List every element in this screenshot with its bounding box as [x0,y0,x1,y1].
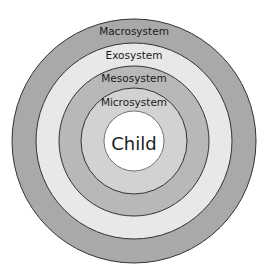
label-child: Child [111,133,156,154]
label-exosystem: Exosystem [106,49,163,61]
ecological-systems-diagram: Macrosystem Exosystem Mesosystem Microsy… [0,0,269,277]
label-microsystem: Microsystem [101,96,167,108]
label-macrosystem: Macrosystem [99,25,169,37]
label-mesosystem: Mesosystem [101,72,166,84]
